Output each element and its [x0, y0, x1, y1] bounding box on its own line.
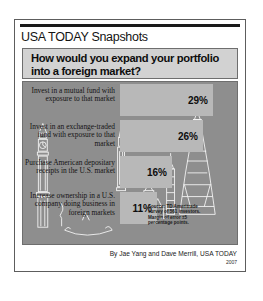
header-rule [20, 24, 240, 27]
table-row: Purchase American depositary receipts in… [23, 156, 231, 188]
chart-panel: Invest in a mutual fund with exposure to… [22, 81, 238, 245]
question-text: How would you expand your portfolio into… [31, 52, 231, 77]
table-row: Invest in a mutual fund with exposure to… [23, 84, 231, 116]
bar-fill: 29% [120, 84, 213, 116]
table-row: Invest in an exchange-traded fund with e… [23, 120, 231, 152]
source-note: Source: TD Ameritrade survey of 561 inve… [148, 204, 204, 225]
snapshot-frame: USA TODAY Snapshots How would you expand… [14, 19, 246, 272]
page-title: USA TODAY Snapshots [21, 30, 148, 44]
bar-value: 29% [188, 95, 208, 106]
bar-label: Invest in a mutual fund with exposure to… [23, 87, 115, 104]
bar-value: 16% [147, 167, 167, 178]
bar-label: Purchase American depositary receipts in… [23, 159, 115, 176]
bar-value: 26% [178, 131, 198, 142]
bar-label: Increase ownership in a U.S. company doi… [23, 192, 115, 217]
bar-fill: 26% [120, 120, 203, 152]
question-box: How would you expand your portfolio into… [22, 48, 238, 79]
bar-fill: 16% [120, 156, 172, 188]
byline: By Jae Yang and Dave Merrill, USA TODAY [110, 250, 237, 257]
year-label: 2007 [226, 259, 237, 265]
bar-label: Invest in an exchange-traded fund with e… [23, 123, 115, 148]
